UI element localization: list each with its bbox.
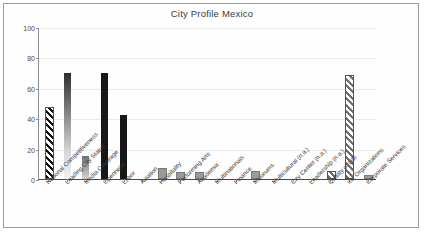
y-axis-tick-label: 40 — [27, 116, 35, 123]
y-axis-tick-label: 100 — [23, 25, 35, 32]
chart-screenshot: City Profile Mexico 020406080100 Nationa… — [0, 0, 424, 233]
bar — [45, 107, 54, 179]
x-axis-labels: National CompetitivenessLeading City Sta… — [38, 181, 376, 233]
chart-title: City Profile Mexico — [0, 8, 424, 19]
y-axis-tick-label: 60 — [27, 85, 35, 92]
y-axis-tick-label: 80 — [27, 55, 35, 62]
y-axis-tick-label: 0 — [31, 177, 35, 184]
y-axis-tick-label: 20 — [27, 146, 35, 153]
